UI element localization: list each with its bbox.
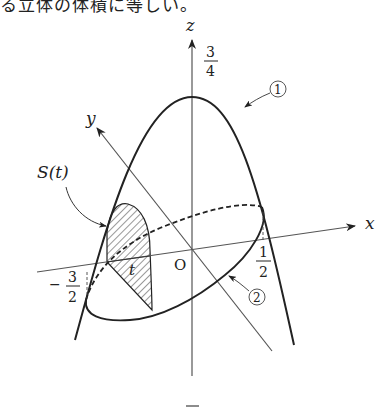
- t-label: t: [129, 261, 136, 279]
- curve-1-marker-label: 1: [274, 83, 282, 97]
- curve-1-pointer-arrow: [245, 93, 270, 107]
- x-neg-intercept-sign: −: [49, 276, 61, 292]
- origin-label: O: [174, 256, 186, 274]
- x-intercept-numerator: 1: [259, 244, 268, 260]
- x-neg-intercept-numerator: 3: [68, 269, 77, 285]
- parabola-curve-1: [75, 97, 294, 345]
- x-axis-label: x: [365, 213, 375, 233]
- z-intercept-denominator: 4: [206, 63, 215, 79]
- z-axis-label: z: [185, 16, 195, 35]
- section-label-arrow: [66, 187, 106, 226]
- x-intercept-denominator: 2: [259, 264, 268, 280]
- diagram-canvas: z x y O 3 4 1 2 − 3 2 t S(t) 1 2: [0, 0, 389, 407]
- x-neg-intercept-denominator: 2: [68, 289, 77, 305]
- section-label: S(t): [37, 162, 69, 182]
- z-intercept-numerator: 3: [206, 44, 215, 60]
- y-axis-label: y: [85, 108, 96, 128]
- x-axis: [37, 226, 355, 272]
- curve-2-pointer-arrow: [229, 276, 249, 291]
- curve-2-marker-label: 2: [253, 291, 261, 305]
